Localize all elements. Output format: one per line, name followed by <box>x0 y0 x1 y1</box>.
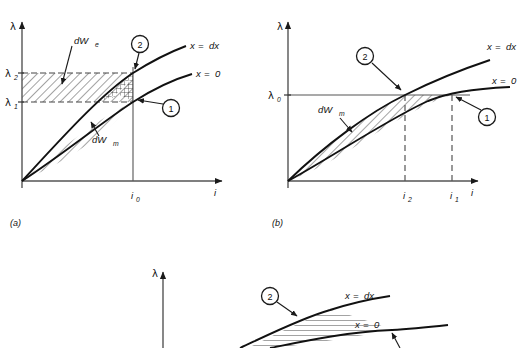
axis-label-lambda-c: λ <box>152 268 158 279</box>
svg-text:dx: dx <box>506 41 517 52</box>
figure-canvas: λ i λ 2 λ 1 i 0 x = dx x = 0 dW <box>0 0 520 348</box>
svg-text:=: = <box>204 68 210 79</box>
svg-text:m: m <box>339 110 345 117</box>
leader-marker-2-a <box>135 53 139 69</box>
region-hatched-c <box>248 310 392 348</box>
svg-text:0: 0 <box>215 68 221 79</box>
curve-x-equals-dx-a <box>22 46 186 181</box>
svg-text:2: 2 <box>13 74 18 81</box>
svg-text:2: 2 <box>267 292 272 302</box>
svg-text:1: 1 <box>484 113 489 123</box>
curve-label-x-0-b: x = 0 <box>491 75 517 86</box>
svg-text:=: = <box>353 290 359 301</box>
svg-text:2: 2 <box>362 52 367 62</box>
svg-text:dx: dx <box>364 290 375 301</box>
svg-text:0: 0 <box>136 196 140 203</box>
svg-text:1: 1 <box>14 103 18 110</box>
svg-text:1: 1 <box>168 104 173 114</box>
svg-text:dW: dW <box>74 35 89 46</box>
curve-label-x-0-c: x = 0 <box>354 319 380 330</box>
xtick-label-i2: i 2 <box>403 190 412 203</box>
svg-text:x: x <box>344 290 351 301</box>
figure-magnetic-energy-coenergy: λ i λ 2 λ 1 i 0 x = dx x = 0 dW <box>0 0 520 348</box>
curve-label-x-dx-a: x = dx <box>189 40 220 51</box>
svg-text:0: 0 <box>374 319 380 330</box>
ytick-label-lambda1: λ 1 <box>5 97 18 110</box>
svg-text:1: 1 <box>455 196 459 203</box>
svg-text:=: = <box>198 40 204 51</box>
svg-text:e: e <box>95 41 99 48</box>
ytick-label-lambda0: λ 0 <box>268 90 281 103</box>
svg-text:λ: λ <box>5 97 11 108</box>
curve-label-x-dx-c: x = dx <box>344 290 375 301</box>
svg-text:x: x <box>195 68 202 79</box>
svg-text:0: 0 <box>277 96 281 103</box>
svg-text:dx: dx <box>209 40 220 51</box>
marker-1-a: 1 <box>138 100 180 117</box>
marker-2-b: 2 <box>357 48 402 91</box>
svg-text:=: = <box>500 75 506 86</box>
svg-text:2: 2 <box>137 40 142 50</box>
xtick-label-i1: i 1 <box>450 190 459 203</box>
axis-label-i-a: i <box>214 187 217 198</box>
svg-text:i: i <box>131 190 134 201</box>
marker-2-c: 2 <box>262 288 298 317</box>
svg-text:λ: λ <box>5 68 11 79</box>
svg-text:λ: λ <box>268 90 274 101</box>
panel-b: λ i λ 0 i 2 i 1 x = dx x = 0 dW m <box>268 21 517 228</box>
leader-marker-2-b <box>372 63 401 90</box>
svg-text:0: 0 <box>511 75 517 86</box>
svg-text:dW: dW <box>318 104 333 115</box>
svg-text:2: 2 <box>407 196 412 203</box>
curve-label-x-dx-b: x = dx <box>486 41 517 52</box>
leader-marker-1-b <box>456 97 481 110</box>
svg-text:x: x <box>486 41 493 52</box>
marker-2-a: 2 <box>132 36 149 70</box>
region-dWm-fill-b <box>288 95 452 181</box>
svg-text:m: m <box>113 140 119 147</box>
svg-text:i: i <box>403 190 406 201</box>
axis-label-lambda-a: λ <box>10 21 16 32</box>
region-dWe-fill <box>22 73 133 102</box>
leader-marker-1-c <box>392 333 400 348</box>
axis-label-lambda-b: λ <box>277 21 283 32</box>
leader-dWm-b <box>340 118 352 132</box>
ytick-label-lambda2: λ 2 <box>5 68 18 81</box>
xtick-label-i0: i 0 <box>131 190 140 203</box>
marker-1-b: 1 <box>456 97 496 126</box>
leader-marker-1-a <box>138 100 163 104</box>
panel-caption-b: (b) <box>272 218 283 228</box>
svg-text:x: x <box>491 75 498 86</box>
svg-text:=: = <box>495 41 501 52</box>
svg-text:=: = <box>363 319 369 330</box>
region-label-dWm-b: dW m <box>318 104 352 132</box>
svg-text:x: x <box>189 40 196 51</box>
axis-label-i-b: i <box>471 187 474 198</box>
curve-label-x-0-a: x = 0 <box>195 68 221 79</box>
panel-c: λ x = dx x = 0 2 <box>152 268 448 348</box>
leader-marker-2-c <box>277 302 297 316</box>
panel-caption-a: (a) <box>10 218 21 228</box>
panel-a: λ i λ 2 λ 1 i 0 x = dx x = 0 dW <box>5 21 222 228</box>
svg-text:i: i <box>450 190 453 201</box>
svg-text:dW: dW <box>92 134 107 145</box>
